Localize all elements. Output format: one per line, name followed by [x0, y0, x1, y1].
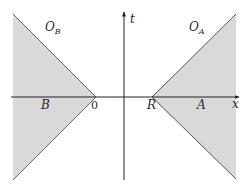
- x-axis-label: x: [232, 97, 239, 111]
- observer-a-sub: A: [198, 27, 205, 36]
- observer-b-main: O: [45, 20, 55, 34]
- observer-b-sub: B: [54, 27, 61, 36]
- spacetime-diagram: t x 0 R B A OB OA: [0, 0, 251, 193]
- r-label: R: [146, 98, 156, 112]
- region-a-label: A: [196, 98, 206, 112]
- t-axis-label: t: [130, 12, 135, 26]
- observer-b-label: OB: [45, 20, 61, 36]
- region-b-label: B: [40, 98, 50, 112]
- observer-a-main: O: [189, 20, 199, 34]
- origin-label: 0: [91, 99, 98, 112]
- observer-a-label: OA: [189, 20, 205, 36]
